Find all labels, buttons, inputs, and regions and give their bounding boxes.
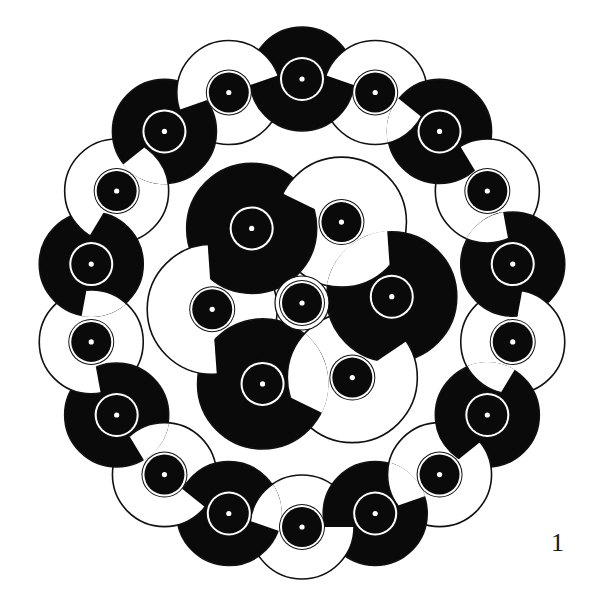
- outer-disk-7: [417, 452, 463, 498]
- center-dot-icon: [373, 511, 378, 516]
- center-dot-icon: [299, 524, 304, 529]
- center-small-disk: [279, 280, 325, 326]
- center-dot-icon: [485, 188, 490, 193]
- center-dot-icon: [299, 76, 304, 81]
- center-dot-icon: [437, 472, 442, 477]
- outer-disk-14: [68, 241, 114, 287]
- outer-disk-0: [279, 56, 325, 102]
- center-dot-icon: [162, 129, 167, 134]
- outer-disk-6: [464, 392, 510, 438]
- center-dot-icon: [339, 220, 344, 225]
- inner-disk-0: [229, 205, 275, 251]
- center-dot-icon: [89, 262, 94, 267]
- outer-disk-2: [417, 108, 463, 154]
- center-dot-icon: [260, 381, 265, 386]
- outer-disk-10: [206, 490, 252, 536]
- center-dot-icon: [226, 90, 231, 95]
- center-disk: [275, 276, 329, 330]
- outer-disk-13: [68, 319, 114, 365]
- outer-disk-1: [352, 70, 398, 116]
- figure-number-label: 1: [551, 530, 564, 556]
- interlocking-rings-figure: [0, 0, 597, 614]
- center-dot-icon: [249, 226, 254, 231]
- inner-disk-1: [318, 199, 364, 245]
- center-dot-icon: [114, 188, 119, 193]
- outer-disk-15: [94, 168, 140, 214]
- outer-disk-9: [279, 504, 325, 550]
- outer-disk-3: [464, 168, 510, 214]
- outer-disk-11: [141, 452, 187, 498]
- center-dot-icon: [226, 511, 231, 516]
- outer-disk-17: [206, 70, 252, 116]
- inner-disk-4: [240, 361, 286, 407]
- inner-disk-3: [329, 355, 375, 401]
- center-dot-icon: [437, 129, 442, 134]
- center-dot-icon: [350, 375, 355, 380]
- outer-disk-5: [490, 319, 536, 365]
- center-dot-icon: [510, 262, 515, 267]
- center-dot-icon: [485, 412, 490, 417]
- outer-disk-16: [141, 108, 187, 154]
- center-dot-icon: [114, 412, 119, 417]
- inner-disk-5: [189, 286, 235, 332]
- outer-disk-8: [352, 490, 398, 536]
- center-dot-icon: [89, 339, 94, 344]
- center-dot-icon: [162, 472, 167, 477]
- inner-disk-2: [369, 274, 415, 320]
- center-dot-icon: [210, 307, 215, 312]
- center-dot-icon: [389, 294, 394, 299]
- center-dot-icon: [510, 339, 515, 344]
- outer-disk-12: [94, 392, 140, 438]
- outer-disk-4: [490, 241, 536, 287]
- center-dot-icon: [373, 90, 378, 95]
- center-dot-icon: [299, 300, 304, 305]
